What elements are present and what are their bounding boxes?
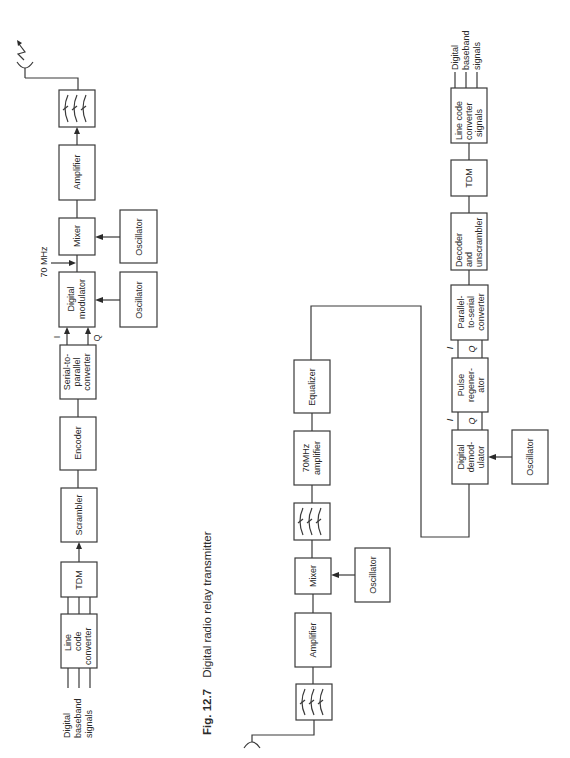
svg-text:Digital: Digital bbox=[450, 45, 460, 70]
svg-text:converter: converter bbox=[83, 627, 93, 665]
arrow-icon bbox=[331, 572, 339, 578]
svg-text:Q: Q bbox=[467, 345, 477, 352]
rx-digital-demodulator-block: Digital demod- ulator bbox=[452, 430, 488, 484]
svg-text:converter: converter bbox=[464, 102, 474, 140]
tx-mixer-oscillator-block: Oscillator bbox=[120, 210, 157, 263]
svg-text:Decoder: Decoder bbox=[454, 233, 464, 267]
arrow-icon bbox=[95, 297, 103, 303]
svg-text:Line: Line bbox=[63, 634, 73, 651]
q-channel-label: Q bbox=[467, 417, 477, 424]
antenna-icon bbox=[17, 40, 33, 78]
svg-text:baseband: baseband bbox=[461, 30, 471, 70]
svg-text:Mixer: Mixer bbox=[308, 565, 318, 587]
svg-text:demod-: demod- bbox=[466, 442, 476, 473]
tx-input-label: Digital baseband signals bbox=[62, 698, 94, 738]
i-channel-label: I bbox=[52, 336, 62, 339]
figure-number: Fig. 12.7 bbox=[201, 689, 213, 735]
arrow-icon bbox=[69, 260, 76, 266]
arrow-icon bbox=[74, 127, 80, 134]
rx-bandpass-filter-2 bbox=[294, 503, 330, 540]
svg-text:Q: Q bbox=[92, 334, 102, 341]
svg-text:Line code: Line code bbox=[454, 101, 464, 140]
rx-amplifier-block: Amplifier bbox=[295, 613, 331, 667]
i-channel-label: I bbox=[445, 418, 455, 421]
tx-amplifier-block: Amplifier bbox=[59, 145, 95, 200]
svg-text:Oscillator: Oscillator bbox=[134, 281, 144, 319]
arrow-icon bbox=[95, 234, 103, 240]
rx-pulse-regenerator-block: Pulse regener- ator bbox=[452, 358, 488, 412]
rx-bandpass-filter bbox=[296, 684, 332, 720]
svg-text:unscrambler: unscrambler bbox=[474, 217, 484, 267]
svg-text:modulator: modulator bbox=[77, 279, 87, 319]
svg-text:and: and bbox=[464, 252, 474, 267]
rx-70mhz-amplifier-block: 70MHz amplifier bbox=[294, 431, 330, 485]
tx-digital-modulator-block: Digital modulator bbox=[59, 272, 95, 327]
svg-text:converter: converter bbox=[82, 353, 92, 391]
svg-text:Fig. 12.7 Digital radio: Fig. 12.7 Digital radio relay transmitte… bbox=[201, 531, 213, 735]
svg-text:Encoder: Encoder bbox=[73, 426, 83, 460]
svg-text:Serial-to-: Serial-to- bbox=[62, 354, 72, 391]
tx-modulator-oscillator-block: Oscillator bbox=[120, 272, 157, 327]
receiver-chain: Amplifier Mixer Oscillator bbox=[244, 30, 548, 748]
svg-text:I: I bbox=[445, 346, 455, 349]
svg-text:signals: signals bbox=[472, 41, 482, 70]
svg-text:Oscillator: Oscillator bbox=[368, 556, 378, 594]
svg-text:70MHz: 70MHz bbox=[301, 443, 311, 472]
svg-text:Oscillator: Oscillator bbox=[525, 438, 535, 476]
rx-equalizer-block: Equalizer bbox=[294, 360, 330, 413]
svg-text:signals: signals bbox=[474, 108, 484, 137]
svg-text:ulator: ulator bbox=[476, 446, 486, 469]
svg-text:Amplifier: Amplifier bbox=[308, 622, 318, 657]
tx-scrambler-block: Scrambler bbox=[61, 488, 97, 542]
svg-text:amplifier: amplifier bbox=[312, 441, 322, 475]
tx-encoder-block: Encoder bbox=[60, 417, 96, 470]
svg-text:I: I bbox=[52, 336, 62, 339]
tx-mixer-block: Mixer bbox=[59, 218, 95, 255]
svg-text:signals: signals bbox=[84, 709, 94, 738]
q-channel-label: Q bbox=[92, 334, 102, 341]
tx-line-code-converter-block: Line code converter bbox=[61, 614, 97, 668]
if-frequency-label: 70 MHz bbox=[39, 246, 49, 278]
svg-text:Digital: Digital bbox=[66, 286, 76, 311]
svg-text:Digital: Digital bbox=[456, 444, 466, 469]
rx-mixer-oscillator-block: Oscillator bbox=[355, 548, 390, 602]
svg-text:Pulse: Pulse bbox=[456, 374, 466, 397]
rx-parallel-to-serial-block: Parallel- to-serial converter bbox=[451, 285, 488, 340]
arrow-icon bbox=[64, 327, 70, 334]
arrow-icon bbox=[85, 327, 91, 334]
tx-tdm-block: TDM bbox=[61, 562, 97, 597]
rx-tdm-block: TDM bbox=[451, 160, 487, 196]
svg-text:Q: Q bbox=[467, 417, 477, 424]
rx-line-code-converter-block: Line code converter signals bbox=[451, 88, 487, 143]
tx-serial-to-parallel-block: Serial-to- parallel converter bbox=[60, 345, 96, 399]
tx-bandpass-filter bbox=[59, 90, 95, 127]
svg-text:converter: converter bbox=[476, 293, 486, 331]
svg-text:Oscillator: Oscillator bbox=[134, 218, 144, 256]
svg-text:regener-: regener- bbox=[466, 368, 476, 402]
svg-text:ator: ator bbox=[476, 377, 486, 393]
svg-text:I: I bbox=[445, 418, 455, 421]
svg-text:Scrambler: Scrambler bbox=[74, 494, 84, 535]
rx-decoder-unscrambler-block: Decoder and unscrambler bbox=[451, 213, 487, 270]
antenna-icon bbox=[244, 720, 314, 748]
svg-text:Digital: Digital bbox=[62, 713, 72, 738]
svg-text:Mixer: Mixer bbox=[72, 225, 82, 247]
transmitter-chain: Amplifier Mixer Oscillator 70 MHz bbox=[17, 40, 157, 738]
svg-text:parallel: parallel bbox=[72, 357, 82, 386]
svg-text:Equalizer: Equalizer bbox=[307, 368, 317, 406]
svg-text:70 MHz: 70 MHz bbox=[39, 246, 49, 278]
svg-text:TDM: TDM bbox=[464, 168, 474, 188]
antenna-feed-wire bbox=[25, 78, 78, 90]
figure-caption-text: Digital radio relay transmitter bbox=[201, 531, 213, 678]
svg-text:code: code bbox=[73, 631, 83, 651]
figure-caption: Fig. 12.7 Digital radio relay transmitte… bbox=[201, 531, 213, 735]
rx-demod-oscillator-block: Oscillator bbox=[512, 430, 548, 484]
svg-text:TDM: TDM bbox=[74, 570, 84, 590]
svg-text:baseband: baseband bbox=[73, 698, 83, 738]
svg-text:to-serial: to-serial bbox=[466, 296, 476, 328]
rx-mixer-block: Mixer bbox=[295, 558, 331, 594]
diagram-canvas: Amplifier Mixer Oscillator 70 MHz bbox=[0, 0, 570, 758]
block-label: Amplifier bbox=[72, 154, 82, 189]
rx-output-label: Digital baseband signals bbox=[450, 30, 482, 70]
svg-text:Parallel-: Parallel- bbox=[456, 295, 466, 328]
